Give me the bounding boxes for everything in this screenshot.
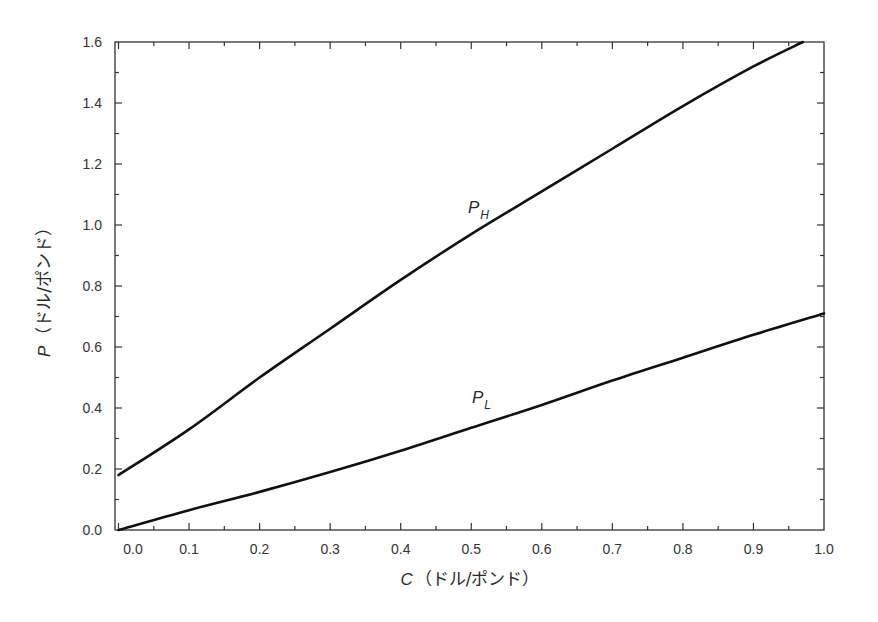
x-tick-label: 0.3 bbox=[320, 541, 340, 557]
x-axis-var: C bbox=[400, 570, 413, 589]
x-tick-label: 0.8 bbox=[673, 541, 693, 557]
x-tick-label: 0.0 bbox=[123, 541, 143, 557]
y-tick-label: 0.0 bbox=[83, 522, 103, 538]
y-tick-label: 0.8 bbox=[83, 278, 103, 294]
x-tick-label: 0.9 bbox=[744, 541, 764, 557]
series-lines bbox=[119, 42, 825, 530]
x-tick-label: 0.1 bbox=[179, 541, 199, 557]
x-tick-label: 0.5 bbox=[462, 541, 482, 557]
y-tick-label: 1.0 bbox=[83, 217, 103, 233]
series-line-p-h bbox=[119, 42, 803, 475]
plot-frame bbox=[115, 42, 824, 530]
series-line-p-l bbox=[119, 313, 825, 530]
x-tick-label: 0.4 bbox=[391, 541, 411, 557]
y-tick-label: 1.6 bbox=[83, 34, 103, 50]
line-chart: 0.00.10.20.30.40.50.60.70.80.91.0 0.00.2… bbox=[0, 0, 878, 622]
y-axis-title: P（ドル/ポンド） bbox=[34, 219, 54, 357]
x-tick-label: 1.0 bbox=[814, 541, 834, 557]
x-tick-labels: 0.00.10.20.30.40.50.60.70.80.91.0 bbox=[123, 541, 834, 557]
y-tick-labels: 0.00.20.40.60.81.01.21.41.6 bbox=[83, 34, 103, 538]
series-label-p-h: PH bbox=[468, 198, 489, 222]
axis-ticks bbox=[115, 42, 824, 530]
y-tick-label: 1.2 bbox=[83, 156, 103, 172]
y-tick-label: 0.6 bbox=[83, 339, 103, 355]
y-tick-label: 0.2 bbox=[83, 461, 103, 477]
x-tick-label: 0.7 bbox=[603, 541, 623, 557]
y-tick-label: 0.4 bbox=[83, 400, 103, 416]
y-tick-label: 1.4 bbox=[83, 95, 103, 111]
plot-border bbox=[115, 42, 824, 530]
x-axis-title: C（ドル/ポンド） bbox=[400, 569, 539, 589]
x-tick-label: 0.6 bbox=[532, 541, 552, 557]
x-axis-unit: （ドル/ポンド） bbox=[415, 569, 540, 589]
x-tick-label: 0.2 bbox=[250, 541, 270, 557]
series-label-p-l: PL bbox=[472, 388, 491, 412]
y-axis-var: P bbox=[35, 345, 54, 357]
y-axis-unit: （ドル/ポンド） bbox=[34, 219, 54, 344]
